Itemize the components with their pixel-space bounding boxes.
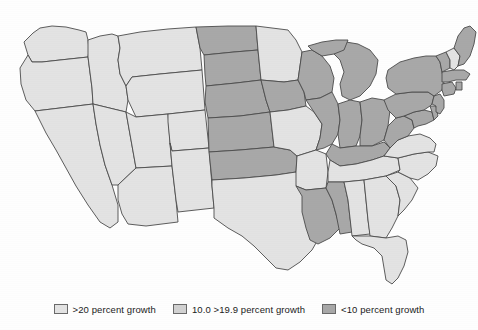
legend-label-low: <10 percent growth [341,304,424,315]
state-RI[interactable] [456,82,462,90]
state-CT[interactable] [442,82,456,96]
legend-label-high: >20 percent growth [73,304,156,315]
growth-map-figure: >20 percent growth 10.0 >19.9 percent gr… [0,0,478,330]
state-IN[interactable] [338,100,362,148]
state-OR[interactable] [20,55,93,111]
states-layer [20,26,476,284]
legend-swatch-low [322,304,336,314]
state-CO[interactable] [168,110,209,151]
legend-item-medium[interactable]: 10.0 >19.9 percent growth [173,304,305,315]
state-NM[interactable] [170,143,214,212]
us-choropleth-map [0,0,478,292]
legend-item-low[interactable]: <10 percent growth [322,304,424,315]
legend-label-medium: 10.0 >19.9 percent growth [192,304,305,315]
legend-item-high[interactable]: >20 percent growth [54,304,156,315]
state-NE[interactable] [205,80,270,118]
state-WY[interactable] [126,70,205,117]
state-FL[interactable] [352,236,408,284]
state-WA[interactable] [24,26,89,62]
legend-swatch-medium [173,304,187,314]
state-MA[interactable] [442,70,470,82]
map-svg [0,0,478,292]
legend-swatch-high [54,304,68,314]
state-NY[interactable] [386,56,444,96]
state-AR[interactable] [296,150,328,190]
state-MN[interactable] [256,26,302,82]
map-legend: >20 percent growth 10.0 >19.9 percent gr… [0,296,478,322]
state-KS[interactable] [208,112,274,152]
state-GA[interactable] [364,176,400,238]
